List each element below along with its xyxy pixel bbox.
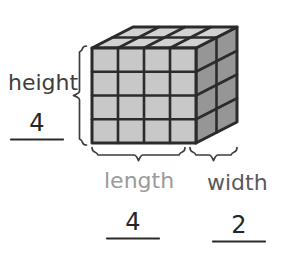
width-label: width: [207, 170, 268, 195]
height-answer-value: 4: [29, 109, 44, 137]
length-label: length: [104, 168, 174, 193]
figure-canvas: height length width 4 4 2: [0, 0, 283, 254]
width-answer-value: 2: [231, 211, 246, 239]
prism-front-face: [92, 48, 196, 143]
length-brace: [92, 148, 185, 161]
prism-volume-figure: height length width 4 4 2: [0, 0, 283, 254]
width-brace: [190, 148, 237, 161]
length-answer-blank[interactable]: 4: [107, 208, 159, 239]
height-answer-blank[interactable]: 4: [11, 109, 63, 140]
height-label: height: [8, 70, 78, 95]
height-brace: [74, 46, 87, 145]
width-answer-blank[interactable]: 2: [213, 211, 265, 242]
length-answer-value: 4: [125, 208, 140, 236]
